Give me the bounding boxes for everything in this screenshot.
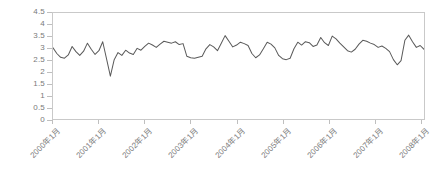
y-tick-mark xyxy=(47,24,52,25)
x-tick-label: 2004年1月 xyxy=(208,126,247,165)
x-tick-mark xyxy=(52,120,53,124)
x-tick-mark xyxy=(237,120,238,124)
plot-area xyxy=(52,12,425,120)
x-tick-label: 2008年1月 xyxy=(393,126,432,165)
y-axis: 4.543.532.521.510.50 xyxy=(0,0,48,174)
y-tick-mark xyxy=(47,96,52,97)
y-tick-label: 4.5 xyxy=(33,8,45,16)
x-tick-label: 2005年1月 xyxy=(254,126,293,165)
y-tick-label: 1.5 xyxy=(33,80,45,88)
line-chart: 4.543.532.521.510.50 2000年1月2001年1月2002年… xyxy=(0,0,441,174)
y-tick-label: 3 xyxy=(40,44,45,52)
y-tick-label: 1 xyxy=(40,92,45,100)
x-tick-mark xyxy=(375,120,376,124)
y-tick-label: 4 xyxy=(40,20,45,28)
x-tick-mark xyxy=(98,120,99,124)
x-tick-label: 2006年1月 xyxy=(300,126,339,165)
x-tick-label: 2002年1月 xyxy=(116,126,155,165)
x-tick-mark xyxy=(329,120,330,124)
y-tick-mark xyxy=(47,48,52,49)
x-tick-label: 2001年1月 xyxy=(70,126,109,165)
y-tick-label: 0 xyxy=(40,116,45,124)
data-series-line xyxy=(53,13,424,119)
y-tick-label: 2 xyxy=(40,68,45,76)
y-tick-mark xyxy=(47,12,52,13)
x-tick-label: 2007年1月 xyxy=(346,126,385,165)
y-tick-label: 0.5 xyxy=(33,104,45,112)
y-tick-mark xyxy=(47,84,52,85)
x-tick-mark xyxy=(190,120,191,124)
y-tick-mark xyxy=(47,36,52,37)
x-tick-label: 2003年1月 xyxy=(162,126,201,165)
y-tick-label: 3.5 xyxy=(33,32,45,40)
x-tick-mark xyxy=(421,120,422,124)
y-tick-mark xyxy=(47,60,52,61)
y-tick-label: 2.5 xyxy=(33,56,45,64)
y-tick-mark xyxy=(47,72,52,73)
x-tick-mark xyxy=(283,120,284,124)
y-tick-mark xyxy=(47,108,52,109)
x-tick-mark xyxy=(144,120,145,124)
